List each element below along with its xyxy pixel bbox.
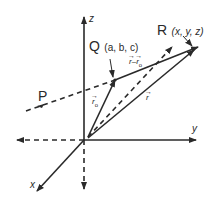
vector-r-label: r xyxy=(146,94,149,102)
x-axis xyxy=(37,140,84,191)
point-r-label: R (x, y, z) xyxy=(157,22,204,38)
vector-r0 xyxy=(88,80,115,137)
point-q-name: Q xyxy=(89,38,100,54)
z-axis-label: z xyxy=(89,14,94,24)
q-point xyxy=(113,78,116,81)
point-r-name: R xyxy=(157,22,167,38)
y-axis-label: y xyxy=(192,124,197,134)
q-leader-line xyxy=(110,59,113,77)
vector-r0-label: ro xyxy=(92,98,98,108)
point-r-coords: (x, y, z) xyxy=(172,26,204,37)
x-axis-label: x xyxy=(30,180,35,190)
vector-r-minus-r0-label: r–ro xyxy=(129,58,142,68)
point-p-label: P xyxy=(38,89,47,103)
